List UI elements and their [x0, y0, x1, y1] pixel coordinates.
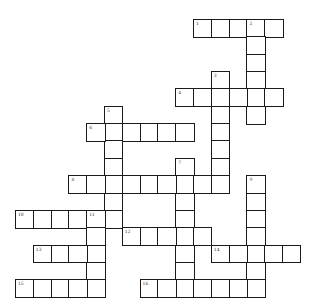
clue-number: 4 — [178, 90, 181, 95]
crossword-cell[interactable] — [175, 245, 194, 264]
crossword-cell[interactable] — [246, 210, 265, 229]
clue-number: 3 — [214, 73, 217, 78]
crossword-cell[interactable] — [68, 279, 87, 298]
crossword-cell[interactable] — [122, 123, 141, 142]
clue-number: 9 — [249, 177, 252, 182]
crossword-cell[interactable]: 16 — [140, 279, 159, 298]
crossword-cell[interactable] — [246, 227, 265, 246]
crossword-cell[interactable]: 6 — [86, 123, 105, 142]
crossword-cell[interactable] — [264, 19, 283, 38]
clue-number: 5 — [107, 108, 110, 113]
clue-number: 7 — [178, 160, 181, 165]
crossword-cell[interactable]: 5 — [104, 106, 123, 125]
crossword-cell[interactable] — [229, 19, 248, 38]
crossword-cell[interactable] — [246, 262, 265, 281]
clue-number: 15 — [18, 281, 24, 286]
clue-number: 11 — [89, 212, 95, 217]
crossword-cell[interactable] — [157, 279, 176, 298]
crossword-cell[interactable]: 8 — [68, 175, 87, 194]
crossword-cell[interactable] — [86, 279, 105, 298]
crossword-cell[interactable] — [246, 279, 265, 298]
clue-number: 8 — [71, 177, 74, 182]
crossword-cell[interactable] — [175, 123, 194, 142]
crossword-cell[interactable] — [229, 88, 248, 107]
crossword-cell[interactable]: 1 — [193, 19, 212, 38]
crossword-cell[interactable] — [175, 262, 194, 281]
crossword-cell[interactable] — [51, 245, 70, 264]
crossword-cell[interactable] — [193, 175, 212, 194]
crossword-cell[interactable] — [193, 279, 212, 298]
crossword-cell[interactable]: 7 — [175, 158, 194, 177]
crossword-cell[interactable] — [229, 245, 248, 264]
clue-number: 13 — [36, 247, 42, 252]
crossword-cell[interactable] — [175, 175, 194, 194]
crossword-cell[interactable]: 14 — [211, 245, 230, 264]
crossword-cell[interactable] — [211, 88, 230, 107]
crossword-cell[interactable] — [246, 88, 265, 107]
crossword-cell[interactable] — [211, 279, 230, 298]
crossword-cell[interactable] — [246, 71, 265, 90]
crossword-cell[interactable] — [246, 54, 265, 73]
crossword-cell[interactable] — [68, 245, 87, 264]
crossword-cell[interactable] — [246, 245, 265, 264]
crossword-cell[interactable] — [211, 106, 230, 125]
crossword-cell[interactable] — [246, 106, 265, 125]
clue-number: 6 — [89, 125, 92, 130]
crossword-cell[interactable] — [211, 158, 230, 177]
crossword-cell[interactable]: 4 — [175, 88, 194, 107]
crossword-cell[interactable]: 12 — [122, 227, 141, 246]
crossword-cell[interactable] — [140, 227, 159, 246]
crossword-cell[interactable] — [157, 227, 176, 246]
crossword-cell[interactable] — [175, 279, 194, 298]
crossword-cell[interactable] — [175, 210, 194, 229]
clue-number: 2 — [249, 21, 252, 26]
crossword-cell[interactable] — [86, 262, 105, 281]
crossword-cell[interactable] — [264, 245, 283, 264]
crossword-cell[interactable] — [51, 279, 70, 298]
crossword-cell[interactable] — [140, 123, 159, 142]
crossword-cell[interactable] — [157, 175, 176, 194]
crossword-cell[interactable] — [86, 245, 105, 264]
crossword-cell[interactable]: 2 — [246, 19, 265, 38]
crossword-cell[interactable] — [104, 123, 123, 142]
crossword-grid: 12345678910111213141516 — [0, 0, 315, 308]
crossword-cell[interactable] — [211, 123, 230, 142]
crossword-cell[interactable]: 11 — [86, 210, 105, 229]
crossword-cell[interactable] — [86, 175, 105, 194]
crossword-cell[interactable] — [51, 210, 70, 229]
crossword-cell[interactable]: 9 — [246, 175, 265, 194]
crossword-cell[interactable] — [175, 227, 194, 246]
crossword-cell[interactable] — [211, 19, 230, 38]
crossword-cell[interactable] — [246, 36, 265, 55]
crossword-cell[interactable]: 13 — [33, 245, 52, 264]
clue-number: 1 — [196, 21, 199, 26]
crossword-cell[interactable] — [211, 175, 230, 194]
crossword-cell[interactable] — [175, 193, 194, 212]
crossword-cell[interactable]: 3 — [211, 71, 230, 90]
clue-number: 10 — [18, 212, 24, 217]
crossword-cell[interactable] — [264, 88, 283, 107]
crossword-cell[interactable] — [246, 193, 265, 212]
crossword-cell[interactable] — [211, 140, 230, 159]
crossword-cell[interactable] — [104, 175, 123, 194]
crossword-cell[interactable]: 15 — [15, 279, 34, 298]
crossword-cell[interactable] — [33, 279, 52, 298]
crossword-cell[interactable]: 10 — [15, 210, 34, 229]
crossword-cell[interactable] — [122, 175, 141, 194]
crossword-cell[interactable] — [68, 210, 87, 229]
crossword-cell[interactable] — [193, 227, 212, 246]
crossword-cell[interactable] — [282, 245, 301, 264]
clue-number: 14 — [214, 247, 220, 252]
crossword-cell[interactable] — [193, 88, 212, 107]
crossword-cell[interactable] — [140, 175, 159, 194]
crossword-cell[interactable] — [157, 123, 176, 142]
clue-number: 16 — [143, 281, 149, 286]
crossword-cell[interactable] — [33, 210, 52, 229]
clue-number: 12 — [125, 229, 131, 234]
crossword-cell[interactable] — [104, 210, 123, 229]
crossword-cell[interactable] — [104, 158, 123, 177]
crossword-cell[interactable] — [86, 227, 105, 246]
crossword-cell[interactable] — [104, 193, 123, 212]
crossword-cell[interactable] — [104, 140, 123, 159]
crossword-cell[interactable] — [229, 279, 248, 298]
